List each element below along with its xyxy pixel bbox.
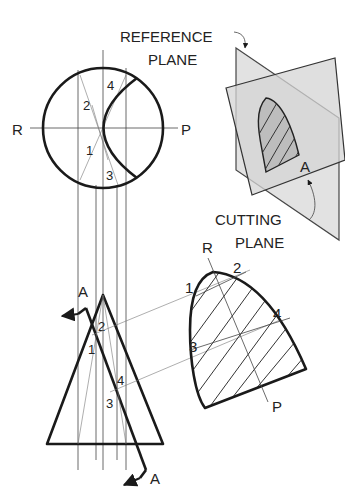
front-view: A A 2 1 4 3 — [47, 270, 280, 487]
top-point-4: 4 — [107, 78, 114, 93]
top-point-3: 3 — [106, 168, 113, 183]
pictorial-view: A REFERENCE PLANE CUTTING PLANE — [120, 28, 345, 251]
section-arrow-a-bottom: A — [150, 470, 160, 487]
true-point-3: 3 — [189, 338, 197, 355]
top-point-1: 1 — [86, 143, 93, 158]
true-axis-r: R — [202, 239, 213, 256]
drawing-svg: R P 4 2 1 3 A REFERENCE PLANE CUTTING PL… — [0, 0, 345, 502]
front-point-2: 2 — [98, 319, 105, 334]
true-point-1: 1 — [185, 279, 193, 296]
axis-label-p: P — [181, 121, 191, 138]
pictorial-mark-a: A — [300, 158, 310, 175]
true-point-2: 2 — [233, 259, 241, 276]
engineering-drawing: R P 4 2 1 3 A REFERENCE PLANE CUTTING PL… — [0, 0, 345, 502]
front-point-3: 3 — [106, 396, 113, 411]
section-arrow-a-top: A — [78, 283, 88, 300]
axis-label-r: R — [12, 121, 23, 138]
true-axis-p: P — [272, 398, 282, 415]
cone-outline — [47, 295, 163, 444]
top-point-2: 2 — [83, 98, 90, 113]
true-shape-view: R P 2 1 4 3 — [170, 230, 340, 420]
reference-plane-label-2: PLANE — [148, 51, 197, 68]
top-view: R P 4 2 1 3 — [12, 50, 191, 470]
cutting-plane-label-1: CUTTING — [215, 211, 282, 228]
cutting-plane-label-2: PLANE — [235, 234, 284, 251]
front-point-4: 4 — [117, 373, 124, 388]
reference-plane-label-1: REFERENCE — [120, 28, 213, 45]
true-shape-outline — [190, 272, 306, 408]
cutting-plane-line — [86, 308, 146, 470]
true-point-4: 4 — [273, 305, 281, 322]
front-point-1: 1 — [88, 342, 95, 357]
